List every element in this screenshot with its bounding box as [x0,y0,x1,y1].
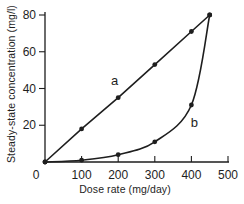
y-tick-label: 20 [23,118,37,132]
series-b-point [189,103,194,108]
x-tick-label: 400 [181,168,201,182]
axes [45,12,229,162]
series-b-point [116,152,121,157]
y-tick-label: 40 [23,82,37,96]
chart-canvas: Steady-state concentration (mg/l) Dose r… [0,0,244,204]
series-b-label: b [191,115,198,130]
series-a-point [189,29,194,34]
series-b-point [152,139,157,144]
series-a-curve [45,15,210,162]
series-a-point [116,95,121,100]
series-a-point [152,62,157,67]
y-tick-label: 60 [23,45,37,59]
series-b-point [207,13,212,18]
dose-concentration-figure: Steady-state concentration (mg/l) Dose r… [0,0,244,204]
series-a-point [79,126,84,131]
y-axis-title: Steady-state concentration (mg/l) [5,5,17,163]
x-tick-label: 500 [218,168,238,182]
x-tick-label: 0 [33,168,40,182]
series-b-point [79,158,84,163]
series-b-point [43,160,48,165]
x-tick-label: 200 [108,168,128,182]
x-axis-title: Dose rate (mg/day) [79,183,171,195]
y-tick-label: 80 [23,8,37,22]
x-tick-label: 300 [145,168,165,182]
x-tick-label: 100 [72,168,92,182]
series-a-label: a [111,73,119,88]
